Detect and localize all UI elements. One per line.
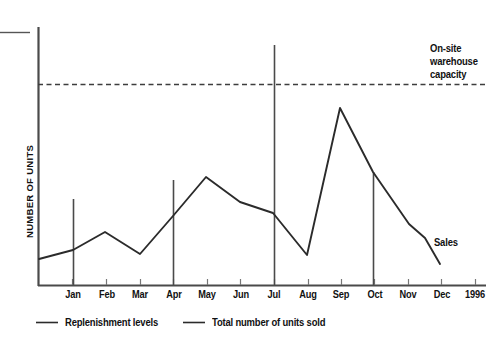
x-axis-label-sep: Sep	[328, 288, 354, 300]
x-axis-label-mar: Mar	[127, 288, 153, 300]
legend-label-units-sold: Total number of units sold	[212, 316, 325, 328]
x-axis-label-jun: Jun	[228, 288, 254, 300]
x-axis-label-apr: Apr	[161, 288, 187, 300]
x-axis-label-may: May	[194, 288, 220, 300]
sales-series-label: Sales	[434, 236, 458, 248]
capacity-note-line-1: On-site	[430, 42, 461, 56]
x-axis-label-nov: Nov	[395, 288, 421, 300]
replenishment-lines	[74, 45, 374, 285]
x-axis-label-jan: Jan	[60, 288, 86, 300]
sales-line	[39, 108, 440, 264]
x-axis-label-aug: Aug	[295, 288, 321, 300]
x-axis-label-oct: Oct	[362, 288, 388, 300]
capacity-note-line-2: warehouse	[430, 55, 478, 69]
y-axis-title: NUMBER OF UNITS	[24, 145, 35, 238]
legend-label-replenishment: Replenishment levels	[65, 316, 158, 328]
capacity-note-line-3: capacity	[430, 68, 466, 82]
x-axis-label-year: 1996	[458, 288, 491, 300]
chart-figure: NUMBER OF UNITS Jan Feb Mar Apr May Jun …	[0, 0, 499, 340]
x-axis-label-jul: Jul	[261, 288, 287, 300]
x-axis-label-dec: Dec	[429, 288, 455, 300]
x-axis-label-feb: Feb	[94, 288, 120, 300]
